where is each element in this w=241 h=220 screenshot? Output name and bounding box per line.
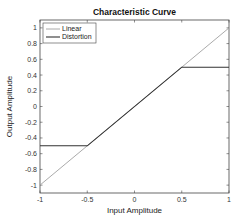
y-tick-label: -1 [31, 182, 37, 189]
plot-area: -1-0.500.51-1-0.8-0.6-0.4-0.200.20.40.60… [25, 20, 231, 203]
characteristic-curve-chart: Characteristic Curve -1-0.500.51-1-0.8-0… [0, 0, 241, 220]
x-tick-label: 1 [227, 196, 231, 203]
y-tick-label: 0.6 [27, 56, 37, 63]
y-axis-label: Output Amplitude [5, 75, 14, 137]
y-tick-label: -0.4 [25, 134, 37, 141]
y-tick-label: -0.2 [25, 119, 37, 126]
y-tick-label: 1 [33, 24, 37, 31]
x-tick-label: 0 [133, 196, 137, 203]
legend: LinearDistortion [43, 23, 96, 43]
x-tick-label: -0.5 [81, 196, 93, 203]
y-tick-label: 0 [33, 103, 37, 110]
y-tick-label: 0.2 [27, 87, 37, 94]
y-tick-label: 0.4 [27, 72, 37, 79]
y-tick-label: -0.6 [25, 150, 37, 157]
legend-entry-distortion: Distortion [62, 33, 92, 40]
x-tick-label: -1 [37, 196, 43, 203]
legend-entry-linear: Linear [62, 25, 82, 32]
chart-title: Characteristic Curve [93, 7, 176, 17]
y-tick-label: 0.8 [27, 40, 37, 47]
x-axis-label: Input Amplitude [107, 206, 163, 215]
y-tick-label: -0.8 [25, 166, 37, 173]
x-tick-label: 0.5 [177, 196, 187, 203]
